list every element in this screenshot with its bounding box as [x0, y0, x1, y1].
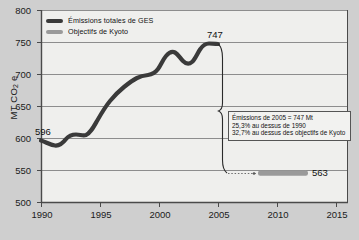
emissions-2005-callout: Émissions de 2005 = 747 Mt 25,3% au dess…	[228, 111, 351, 141]
callout-line-1: Émissions de 2005 = 747 Mt	[232, 114, 347, 122]
x-tick-label-2000: 2000	[140, 209, 180, 220]
emissions-chart: MT CO2 e 800 750 700 650 600 550 500 199…	[0, 0, 359, 240]
y-tick-marks	[37, 11, 41, 203]
y-tick-label-550: 550	[3, 165, 31, 176]
legend-label-kyoto: Objectifs de Kyoto	[68, 27, 128, 36]
y-tick-label-650: 650	[3, 101, 31, 112]
x-tick-label-1995: 1995	[81, 209, 121, 220]
legend-item-emissions: Émissions totales de GES	[46, 16, 154, 25]
y-tick-label-600: 600	[3, 133, 31, 144]
callout-line-3: 32,7% au dessus des objectifs de Kyoto	[232, 129, 347, 137]
x-tick-label-2005: 2005	[199, 209, 239, 220]
callout-line-2: 25,3% au dessus de 1990	[232, 122, 347, 130]
legend-label-emissions: Émissions totales de GES	[68, 16, 154, 25]
legend-swatch-kyoto-icon	[46, 30, 63, 34]
y-tick-label-700: 700	[3, 69, 31, 80]
series-bar-objectifs-kyoto	[258, 171, 308, 176]
y-tick-label-500: 500	[3, 197, 31, 208]
x-tick-label-2015: 2015	[317, 209, 357, 220]
x-tick-label-1990: 1990	[22, 209, 62, 220]
legend-item-kyoto: Objectifs de Kyoto	[46, 27, 154, 36]
x-tick-label-2010: 2010	[258, 209, 298, 220]
data-label-747: 747	[207, 29, 223, 40]
kyoto-connector-dot	[253, 172, 256, 175]
chart-legend: Émissions totales de GES Objectifs de Ky…	[43, 14, 158, 40]
legend-swatch-emissions-icon	[46, 19, 63, 23]
data-label-596: 596	[35, 126, 51, 137]
y-tick-label-750: 750	[3, 37, 31, 48]
y-tick-label-800: 800	[3, 5, 31, 16]
data-label-563: 563	[312, 167, 328, 178]
